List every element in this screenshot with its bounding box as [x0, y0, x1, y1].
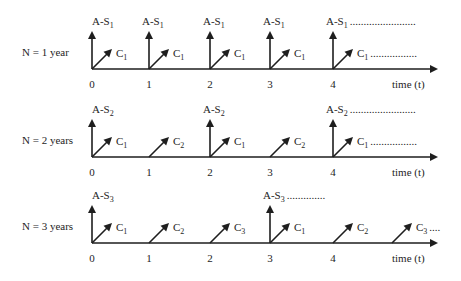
diagonal-arrow-shaft — [333, 142, 348, 157]
net-value-label-text: A-S — [142, 15, 160, 27]
cost-label: C3.... — [416, 221, 441, 236]
net-value-label-subscript: 1 — [344, 21, 348, 30]
tick-label: 4 — [330, 252, 336, 264]
tick-label: 0 — [89, 252, 95, 264]
cost-label: C2 — [173, 221, 184, 236]
diagonal-arrow: C1................. — [333, 135, 417, 157]
tick-label: 4 — [330, 166, 336, 178]
cost-label-continuation-dots: .... — [429, 221, 440, 233]
diagonal-arrow: C2 — [333, 221, 368, 243]
vertical-arrow: A-S3.............. — [263, 189, 325, 243]
up-arrow-icon — [88, 205, 96, 213]
diagonal-arrow: C1 — [270, 221, 305, 243]
cost-label: C1................. — [357, 135, 417, 150]
tick-label: 3 — [267, 252, 273, 264]
cost-label-subscript: 1 — [241, 141, 245, 150]
net-value-label-subscript: 1 — [281, 21, 285, 30]
cost-label-text: C — [357, 221, 364, 233]
cost-label-text: C — [294, 135, 301, 147]
up-arrow-icon — [329, 31, 337, 39]
diagonal-arrow: C1 — [92, 135, 127, 157]
tick-label: 3 — [267, 78, 273, 90]
net-value-label: A-S1 — [203, 15, 225, 30]
diagonal-arrow-shaft — [92, 54, 107, 69]
cost-label-text: C — [234, 135, 241, 147]
cost-label-subscript: 1 — [241, 53, 245, 62]
up-arrow-icon — [206, 119, 214, 127]
cost-label-continuation-dots: ................. — [370, 135, 417, 147]
tick-label: 1 — [146, 78, 152, 90]
tick-label: 3 — [267, 166, 273, 178]
diagonal-arrow: C2 — [270, 135, 305, 157]
timeline-row-3: N = 3 years01234time (t)A-S3A-S3........… — [22, 189, 441, 265]
axis-arrowhead-icon — [430, 65, 438, 73]
net-value-label-text: A-S — [92, 189, 110, 201]
cost-label: C1................. — [357, 47, 417, 62]
net-value-label-text: A-S — [203, 15, 221, 27]
net-value-label-text: A-S — [263, 189, 281, 201]
cost-label-text: C — [357, 47, 364, 59]
cost-label-text: C — [234, 47, 241, 59]
net-value-label-subscript: 1 — [110, 21, 114, 30]
cost-label-subscript: 1 — [123, 227, 127, 236]
diagonal-arrow-shaft — [210, 142, 225, 157]
net-value-label-subscript: 2 — [344, 109, 348, 118]
net-value-label-text: A-S — [326, 15, 344, 27]
cost-label-text: C — [116, 135, 123, 147]
cost-label: C1 — [116, 135, 127, 150]
diagonal-arrow-shaft — [149, 142, 164, 157]
diagonal-arrow: C1 — [210, 135, 245, 157]
up-arrow-icon — [206, 31, 214, 39]
diagonal-arrow-shaft — [333, 228, 348, 243]
cost-label-subscript: 1 — [301, 227, 305, 236]
cost-label: C1 — [116, 221, 127, 236]
net-value-label-text: A-S — [92, 103, 110, 115]
net-value-label: A-S3 — [92, 189, 114, 204]
cost-label-text: C — [294, 221, 301, 233]
cost-label-subscript: 1 — [301, 53, 305, 62]
diagonal-arrow-shaft — [270, 54, 285, 69]
cost-label-text: C — [173, 221, 180, 233]
diagonal-arrow: C1 — [92, 221, 127, 243]
cost-label: C2 — [294, 135, 305, 150]
cost-label-text: C — [116, 47, 123, 59]
diagonal-arrow-shaft — [333, 54, 348, 69]
diagonal-arrow: C1 — [149, 47, 184, 69]
cost-label: C1 — [173, 47, 184, 62]
net-value-label: A-S2........................ — [326, 103, 416, 118]
net-value-label: A-S1 — [142, 15, 164, 30]
axis-label: time (t) — [392, 78, 425, 91]
up-arrow-icon — [88, 31, 96, 39]
diagonal-arrow: C3 — [210, 221, 245, 243]
diagonal-arrow-shaft — [270, 228, 285, 243]
net-value-label: A-S2 — [203, 103, 225, 118]
timeline-row-2: N = 2 years01234time (t)A-S2A-S2A-S2....… — [22, 103, 438, 179]
vertical-arrow: A-S1........................ — [326, 15, 416, 69]
cost-label-subscript: 2 — [180, 227, 184, 236]
cost-label: C1 — [234, 135, 245, 150]
diagonal-arrow: C1................. — [333, 47, 417, 69]
cost-label: C1 — [294, 221, 305, 236]
cost-label-subscript: 1 — [364, 141, 368, 150]
net-value-label-text: A-S — [263, 15, 281, 27]
cost-label-subscript: 1 — [180, 53, 184, 62]
net-value-label-subscript: 3 — [281, 195, 285, 204]
tick-label: 2 — [207, 252, 213, 264]
up-arrow-icon — [329, 119, 337, 127]
net-value-label-subscript: 1 — [160, 21, 164, 30]
tick-label: 0 — [89, 166, 95, 178]
net-value-label: A-S1 — [92, 15, 114, 30]
diagonal-arrow-shaft — [149, 54, 164, 69]
up-arrow-icon — [88, 119, 96, 127]
net-value-label-subscript: 2 — [110, 109, 114, 118]
axis-label: time (t) — [392, 166, 425, 179]
net-value-label-continuation-dots: .............. — [287, 189, 326, 201]
diagonal-arrow-shaft — [210, 54, 225, 69]
diagonal-arrow: C1 — [270, 47, 305, 69]
tick-label: 2 — [207, 166, 213, 178]
row-label: N = 1 year — [22, 46, 69, 58]
cost-label-text: C — [173, 47, 180, 59]
vertical-arrow: A-S1 — [203, 15, 225, 69]
diagonal-arrow-shaft — [210, 228, 225, 243]
cost-label: C2 — [173, 135, 184, 150]
